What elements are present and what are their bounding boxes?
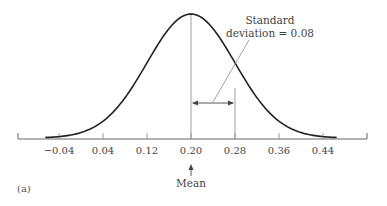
x-tick-label: 0.44 <box>312 145 334 156</box>
x-tick-label: 0.36 <box>268 145 290 156</box>
arrowhead-up-icon <box>189 164 194 170</box>
x-tick-label: −0.04 <box>44 145 75 156</box>
panel-label: (a) <box>17 183 31 194</box>
mean-label: Mean <box>176 177 206 189</box>
x-tick-label: 0.04 <box>92 145 114 156</box>
sd-leader-line <box>213 40 249 102</box>
arrowhead-left-icon <box>192 101 198 106</box>
arrowhead-right-icon <box>228 101 234 106</box>
sd-label-line2: deviation = 0.08 <box>226 27 314 39</box>
x-tick-labels: −0.040.040.120.200.280.360.44 <box>44 145 334 156</box>
x-tick-label: 0.12 <box>136 145 158 156</box>
normal-distribution-chart: −0.040.040.120.200.280.360.44 Standard d… <box>0 0 387 206</box>
x-tick-label: 0.20 <box>180 145 202 156</box>
sd-label-line1: Standard <box>245 14 294 26</box>
x-tick-label: 0.28 <box>224 145 246 156</box>
